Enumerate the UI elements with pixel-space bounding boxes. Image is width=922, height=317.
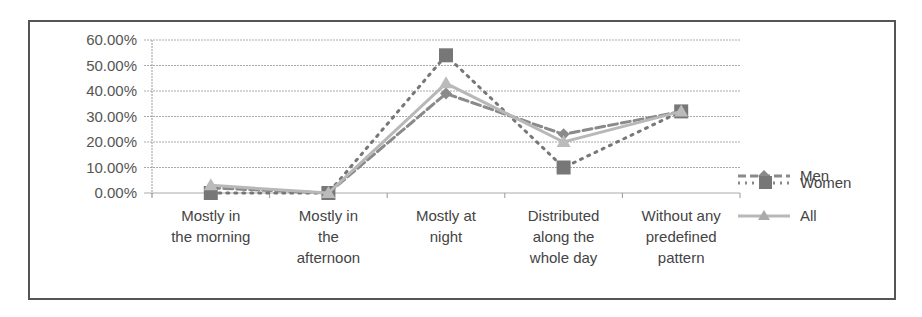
series-line: [211, 83, 681, 193]
square-marker-icon: [439, 48, 453, 62]
x-category-label: whole day: [529, 249, 598, 266]
y-tick-label: 60.00%: [86, 31, 137, 48]
x-category-label: Mostly in: [299, 207, 358, 224]
x-category-label: Distributed: [528, 207, 600, 224]
y-tick-label: 50.00%: [86, 57, 137, 74]
legend-item-all: All: [738, 207, 817, 224]
x-category-label: Without any: [642, 207, 722, 224]
x-category-label: Mostly at: [416, 207, 477, 224]
x-axis-labels: Mostly inthe morningMostly intheafternoo…: [171, 207, 721, 266]
series-men: [205, 88, 687, 199]
series-lines: [204, 48, 688, 200]
series-line: [211, 94, 681, 193]
x-category-label: along the: [533, 228, 595, 245]
square-marker-icon: [759, 176, 772, 189]
x-category-label: predefined: [646, 228, 717, 245]
square-marker-icon: [557, 161, 571, 175]
y-tick-label: 10.00%: [86, 159, 137, 176]
x-category-label: night: [430, 228, 463, 245]
legend-label-all: All: [800, 207, 817, 224]
legend-label-women: Women: [800, 174, 851, 191]
y-axis-ticks: 0.00%10.00%20.00%30.00%40.00%50.00%60.00…: [86, 31, 137, 201]
x-category-label: Mostly in: [181, 207, 240, 224]
y-tick-label: 20.00%: [86, 133, 137, 150]
triangle-marker-icon: [439, 76, 453, 88]
y-tick-label: 40.00%: [86, 82, 137, 99]
line-chart: 0.00%10.00%20.00%30.00%40.00%50.00%60.00…: [0, 0, 922, 317]
y-tick-label: 0.00%: [94, 184, 137, 201]
y-tick-label: 30.00%: [86, 108, 137, 125]
legend: Men Women All: [738, 167, 851, 224]
x-category-label: the: [318, 228, 339, 245]
x-category-label: the morning: [171, 228, 250, 245]
x-category-label: afternoon: [297, 249, 360, 266]
x-category-label: pattern: [658, 249, 705, 266]
